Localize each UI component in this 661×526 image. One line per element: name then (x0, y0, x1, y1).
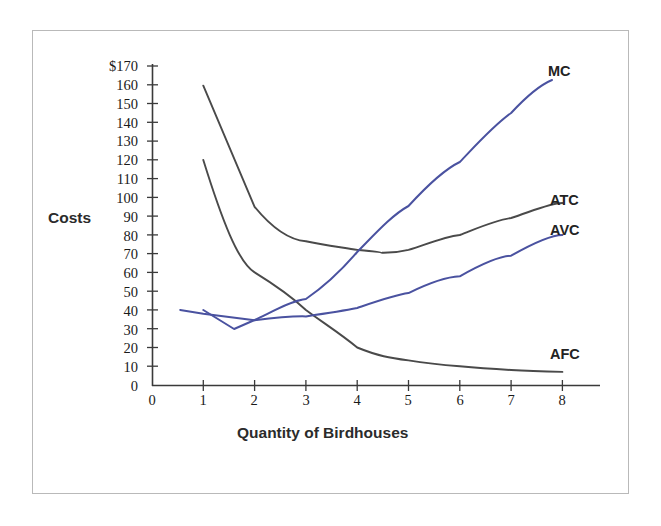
curve-label-afc: AFC (550, 346, 580, 362)
curve-label-mc: MC (548, 63, 571, 79)
curve-afc (203, 160, 562, 372)
curve-mc (203, 80, 552, 329)
curve-label-atc: ATC (550, 192, 579, 208)
cost-curve-chart: Costs Quantity of Birdhouses $170 160 15… (0, 0, 661, 526)
curve-avc (180, 235, 562, 320)
curve-label-avc: AVC (550, 222, 580, 238)
curve-atc (203, 86, 562, 253)
